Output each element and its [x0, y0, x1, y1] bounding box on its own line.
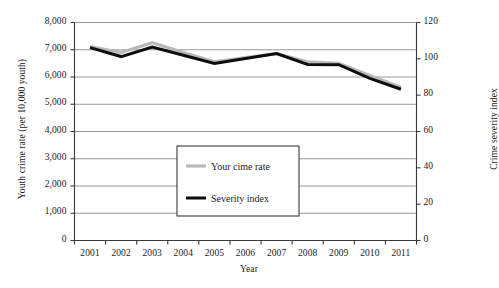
- legend-box: [177, 146, 299, 216]
- legend-label-2: Severity index: [211, 193, 269, 204]
- legend-label-1: Your cime rate: [211, 161, 271, 172]
- chart-legend: Your cime rateSeverity index: [177, 146, 299, 216]
